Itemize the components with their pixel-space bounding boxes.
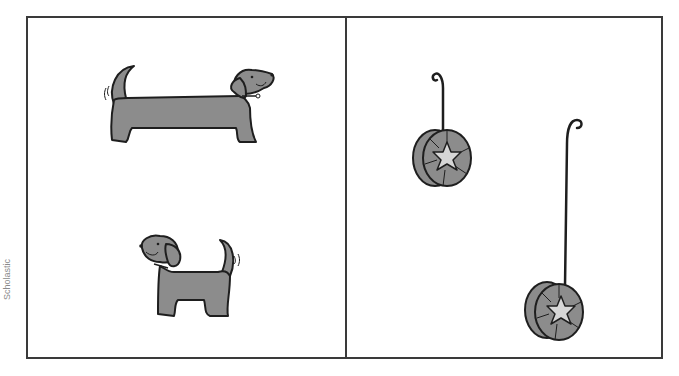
panel-right — [347, 18, 659, 357]
yoyo-long-string-illustration — [525, 114, 595, 344]
panel-left — [28, 18, 345, 357]
short-dog-illustration — [138, 232, 248, 322]
credit-label: Scholastic — [2, 259, 12, 300]
yoyo-short-string-illustration — [413, 64, 483, 194]
long-dog-illustration — [100, 60, 280, 150]
